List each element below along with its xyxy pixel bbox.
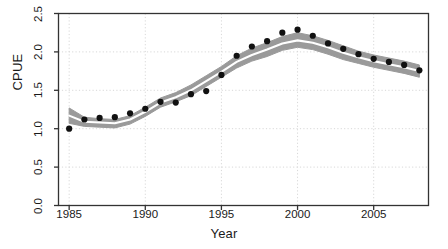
y-tick-label-wrapper: 0.5 (28, 150, 42, 184)
x-tick-label-1985: 1985 (56, 208, 82, 220)
y-tick-label-wrapper: 1.0 (28, 112, 42, 146)
data-points (66, 27, 422, 132)
y-tick-label-wrapper: 2.5 (28, 0, 42, 31)
y-axis-title-wrapper: CPUE (8, 32, 28, 112)
y-axis-title: CPUE (10, 54, 25, 91)
gridlines (59, 14, 429, 206)
axis-frame (59, 14, 429, 206)
cpue-year-chart: 19851990199520002005 0.00.51.01.52.02.5 … (0, 0, 448, 249)
y-tick-label-0.0: 0.0 (32, 198, 44, 214)
y-tick-label-wrapper: 0.0 (28, 189, 42, 223)
y-tick-label-wrapper: 1.5 (28, 73, 42, 107)
x-tick-label-2000: 2000 (285, 208, 311, 220)
x-tick-label-2005: 2005 (361, 208, 387, 220)
y-tick-label-wrapper: 2.0 (28, 35, 42, 69)
y-tick-label-1.0: 1.0 (32, 121, 44, 137)
y-tick-label-1.5: 1.5 (32, 82, 44, 98)
x-tick-label-1995: 1995 (209, 208, 235, 220)
y-tick-label-2.0: 2.0 (32, 44, 44, 60)
y-tick-label-2.5: 2.5 (32, 6, 44, 22)
y-tick-label-0.5: 0.5 (32, 159, 44, 175)
confidence-band (69, 33, 419, 128)
x-tick-label-1990: 1990 (132, 208, 158, 220)
x-axis-title: Year (0, 226, 448, 241)
